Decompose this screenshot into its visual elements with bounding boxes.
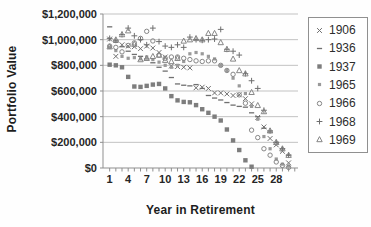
legend-label: 1937 [329, 61, 356, 73]
legend-marker-triangle-icon [314, 134, 325, 145]
y-axis-title: Portfolio Value [5, 9, 21, 169]
svg-text:$200,000: $200,000 [51, 136, 97, 148]
svg-text:16: 16 [196, 173, 208, 185]
svg-text:4: 4 [125, 173, 132, 185]
svg-text:1: 1 [107, 173, 113, 185]
svg-text:$0: $0 [85, 162, 97, 174]
svg-text:$800,000: $800,000 [51, 59, 97, 71]
y-tick-labels: $1,200,000$1,000,000$800,000$600,000$400… [42, 8, 97, 174]
svg-text:$1,200,000: $1,200,000 [42, 8, 97, 20]
data-points [107, 25, 292, 169]
legend-box: 1906193619371965196619681969 [308, 17, 368, 153]
legend-marker-dash-icon [314, 43, 325, 54]
svg-text:28: 28 [270, 173, 282, 185]
svg-text:13: 13 [178, 173, 190, 185]
svg-text:$600,000: $600,000 [51, 85, 97, 97]
gridlines [103, 14, 298, 142]
legend-marker-square-icon [314, 61, 325, 72]
x-tick-labels: 14710131619222528 [107, 173, 283, 185]
legend-item-1966: 1966 [314, 96, 367, 111]
legend-item-1906: 1906 [314, 23, 367, 38]
legend-item-1969: 1969 [314, 132, 367, 147]
legend-item-1965: 1965 [314, 77, 367, 92]
legend-marker-square-small-icon [314, 79, 325, 90]
legend-item-1936: 1936 [314, 41, 367, 56]
legend-label: 1906 [329, 24, 356, 36]
series-1906 [107, 37, 291, 166]
legend-label: 1969 [329, 134, 356, 146]
svg-text:19: 19 [215, 173, 227, 185]
series-1965 [108, 46, 290, 168]
series-1966 [107, 29, 290, 169]
chart-figure: Portfolio Value $1,200,000$1,000,000$800… [0, 0, 371, 227]
legend-label: 1936 [329, 42, 356, 54]
legend-label: 1965 [329, 79, 356, 91]
svg-text:22: 22 [233, 173, 245, 185]
legend-marker-plus-icon [314, 116, 325, 127]
legend-item-1968: 1968 [314, 114, 367, 129]
axes [100, 14, 298, 172]
legend-marker-circle-icon [314, 98, 325, 109]
svg-text:$400,000: $400,000 [51, 111, 97, 123]
svg-text:25: 25 [252, 173, 264, 185]
legend-label: 1966 [329, 97, 356, 109]
svg-text:10: 10 [159, 173, 171, 185]
x-axis-title: Year in Retirement [103, 203, 298, 217]
legend-item-1937: 1937 [314, 59, 367, 74]
legend-marker-x-icon [314, 25, 325, 36]
svg-text:$1,000,000: $1,000,000 [42, 34, 97, 46]
svg-text:7: 7 [144, 173, 150, 185]
legend-label: 1968 [329, 116, 356, 128]
